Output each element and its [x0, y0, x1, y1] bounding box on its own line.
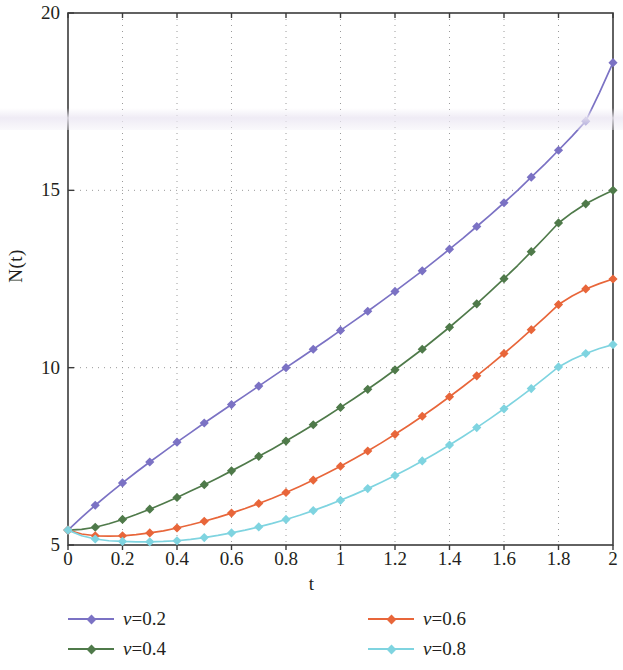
x-tick-label: 0.8: [274, 548, 298, 570]
legend-label: ν=0.6: [423, 608, 466, 630]
series-marker: [282, 516, 289, 523]
x-tick-label: 2: [608, 548, 618, 570]
series-marker: [119, 516, 126, 523]
legend-swatch-icon: [68, 618, 114, 620]
series-marker: [337, 497, 344, 504]
series-marker: [201, 518, 208, 525]
figure-container: N(t) t 00.20.40.60.811.21.41.61.82 51015…: [0, 0, 623, 670]
series-marker: [419, 457, 426, 464]
x-axis-title: t: [0, 573, 623, 595]
series-marker: [609, 341, 616, 348]
series-marker: [146, 506, 153, 513]
series-marker: [228, 467, 235, 474]
x-tick-label: 0: [63, 548, 73, 570]
legend-label: ν=0.8: [423, 638, 466, 660]
x-tick-label: 0.6: [220, 548, 244, 570]
legend-item[interactable]: ν=0.2: [68, 606, 166, 632]
series-marker: [255, 453, 262, 460]
series-marker: [201, 481, 208, 488]
series-marker: [282, 437, 289, 444]
x-tick-label: 1.2: [383, 548, 407, 570]
series-marker: [255, 523, 262, 530]
x-tick-label: 1.8: [547, 548, 571, 570]
series-marker: [255, 500, 262, 507]
series-marker: [310, 507, 317, 514]
x-tick-label: 0.4: [165, 548, 189, 570]
series-marker: [146, 529, 153, 536]
series-marker: [173, 524, 180, 531]
series-marker: [282, 489, 289, 496]
y-tick-label: 20: [18, 2, 60, 24]
legend-label: ν=0.2: [123, 608, 166, 630]
legend-swatch-icon: [368, 618, 414, 620]
series-marker: [201, 534, 208, 541]
series-marker: [92, 524, 99, 531]
y-tick-label: 5: [18, 534, 60, 556]
legend-item[interactable]: ν=0.6: [368, 606, 466, 632]
y-tick-label: 15: [18, 179, 60, 201]
y-tick-label: 10: [18, 357, 60, 379]
series-marker: [609, 275, 616, 282]
series-marker: [364, 485, 371, 492]
legend-swatch-icon: [368, 648, 414, 650]
y-axis-title: N(t): [5, 236, 27, 296]
series-marker: [609, 59, 616, 66]
legend-item[interactable]: ν=0.4: [68, 636, 166, 662]
series-marker: [337, 463, 344, 470]
series-marker: [119, 538, 126, 545]
series-v-0-8: [64, 341, 616, 545]
legend-label: ν=0.4: [123, 638, 166, 660]
series-marker: [582, 350, 589, 357]
x-tick-label: 0.2: [111, 548, 135, 570]
line-chart-plot: [0, 0, 623, 670]
series-marker: [364, 447, 371, 454]
series-marker: [391, 472, 398, 479]
x-tick-label: 1.6: [492, 548, 516, 570]
series-marker: [173, 494, 180, 501]
series-marker: [228, 529, 235, 536]
series-marker: [228, 509, 235, 516]
x-tick-label: 1: [336, 548, 346, 570]
legend-item[interactable]: ν=0.8: [368, 636, 466, 662]
series-marker: [582, 285, 589, 292]
legend-swatch-icon: [68, 648, 114, 650]
series-marker: [609, 187, 616, 194]
x-tick-label: 1.4: [438, 548, 462, 570]
series-marker: [173, 537, 180, 544]
chart-legend: ν=0.2ν=0.4ν=0.6ν=0.8: [68, 606, 613, 668]
series-marker: [310, 476, 317, 483]
